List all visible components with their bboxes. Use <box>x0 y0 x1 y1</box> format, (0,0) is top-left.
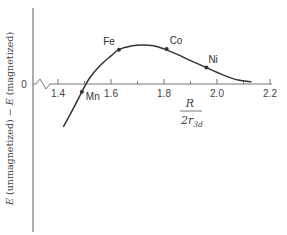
data-point-marker <box>117 48 121 52</box>
x-tick-label: 1.8 <box>157 88 171 99</box>
x-tick-label: 1.4 <box>51 88 65 99</box>
x-label-denominator: 2r3d <box>180 114 203 129</box>
x-axis-title: R 2r3d <box>180 97 203 129</box>
data-curve <box>63 45 251 127</box>
element-label-mn: Mn <box>86 91 100 102</box>
data-point-marker <box>204 66 208 70</box>
x-tick-label: 1.6 <box>104 88 118 99</box>
element-label-fe: Fe <box>103 36 115 47</box>
data-point-marker <box>165 47 169 51</box>
x-axis <box>33 79 272 89</box>
data-point-marker <box>80 90 84 94</box>
x-tick-label: 2.0 <box>210 88 224 99</box>
svg-text:E (unmagnetized) − E (magnetiz: E (unmagnetized) − E (magnetized) <box>4 32 15 206</box>
x-label-numerator: R <box>185 97 194 110</box>
element-label-co: Co <box>170 35 183 46</box>
element-label-ni: Ni <box>208 54 217 65</box>
bethe-slater-chart: 0 1.41.61.82.02.2 MnFeCoNi R 2r3d E (unm… <box>0 0 287 235</box>
axis-break-icon <box>33 79 272 89</box>
y-axis-title: E (unmagnetized) − E (magnetized) <box>4 32 15 206</box>
y-zero-label: 0 <box>21 79 27 90</box>
x-tick-label: 2.2 <box>263 88 277 99</box>
